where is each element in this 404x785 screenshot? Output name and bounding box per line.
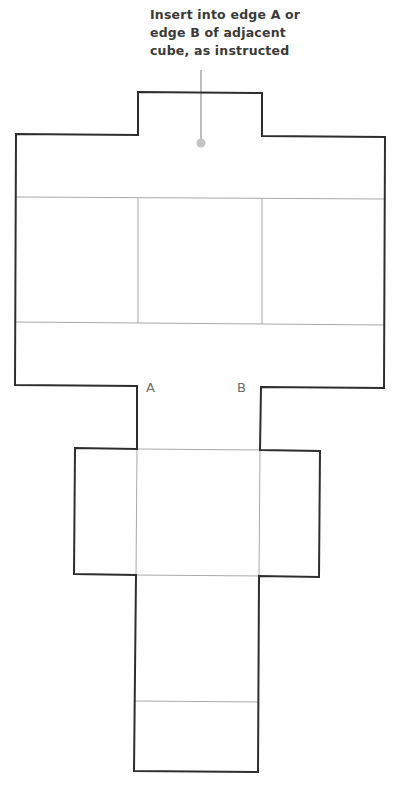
- leader-dot-icon: [197, 139, 206, 148]
- cube-net-diagram: A B: [0, 0, 404, 785]
- edge-label-a: A: [146, 380, 155, 395]
- edge-label-b: B: [237, 380, 246, 395]
- cut-outline: [15, 92, 385, 772]
- fold-lines: [16, 197, 385, 702]
